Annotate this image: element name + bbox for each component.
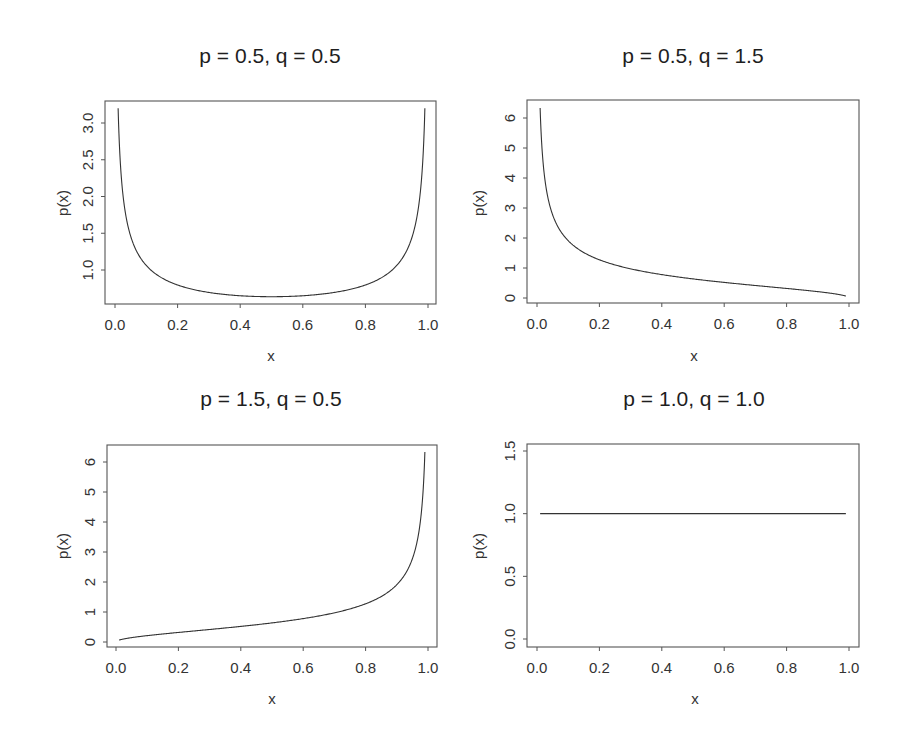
plot-canvas: 0.00.20.40.60.81.01.01.52.02.53.00.00.20… bbox=[0, 0, 900, 735]
y-tick-label: 2.0 bbox=[79, 186, 96, 207]
x-tick-label: 0.8 bbox=[355, 316, 376, 333]
y-tick-label: 1.0 bbox=[79, 260, 96, 281]
y-tick-label: 4 bbox=[81, 518, 98, 526]
y-tick-label: 2.5 bbox=[79, 149, 96, 170]
x-tick-label: 1.0 bbox=[839, 315, 860, 332]
x-tick-label: 0.0 bbox=[105, 316, 126, 333]
density-curve bbox=[118, 108, 425, 296]
x-tick-label: 0.0 bbox=[106, 659, 127, 676]
y-tick-label: 0.0 bbox=[501, 629, 518, 650]
y-tick-label: 2 bbox=[81, 578, 98, 586]
y-tick-label: 1.5 bbox=[79, 223, 96, 244]
x-tick-label: 0.6 bbox=[293, 659, 314, 676]
y-tick-label: 1.5 bbox=[501, 441, 518, 462]
x-tick-label: 0.2 bbox=[168, 659, 189, 676]
x-tick-label: 0.4 bbox=[651, 315, 672, 332]
x-tick-label: 0.0 bbox=[527, 315, 548, 332]
density-curve bbox=[540, 108, 846, 296]
y-tick-label: 3 bbox=[501, 204, 518, 212]
x-tick-label: 0.8 bbox=[776, 315, 797, 332]
x-tick-label: 1.0 bbox=[418, 316, 439, 333]
y-tick-label: 4 bbox=[501, 174, 518, 182]
y-tick-label: 0 bbox=[81, 638, 98, 646]
x-tick-label: 1.0 bbox=[839, 659, 860, 676]
y-tick-label: 1 bbox=[501, 264, 518, 272]
x-tick-label: 0.6 bbox=[714, 315, 735, 332]
y-tick-label: 0 bbox=[501, 294, 518, 302]
x-tick-label: 0.4 bbox=[230, 659, 251, 676]
x-tick-label: 0.0 bbox=[527, 659, 548, 676]
plot-frame bbox=[107, 445, 437, 647]
y-tick-label: 2 bbox=[501, 234, 518, 242]
y-tick-label: 6 bbox=[81, 458, 98, 466]
y-tick-label: 0.5 bbox=[501, 566, 518, 587]
x-tick-label: 0.6 bbox=[714, 659, 735, 676]
x-tick-label: 0.8 bbox=[776, 659, 797, 676]
plot-frame bbox=[527, 444, 859, 647]
density-curve bbox=[119, 452, 425, 640]
y-tick-label: 1.0 bbox=[501, 503, 518, 524]
x-tick-label: 0.6 bbox=[292, 316, 313, 333]
x-tick-label: 0.8 bbox=[355, 659, 376, 676]
plot-frame bbox=[527, 100, 859, 303]
x-tick-label: 0.4 bbox=[230, 316, 251, 333]
y-tick-label: 3 bbox=[81, 548, 98, 556]
x-tick-label: 0.2 bbox=[589, 315, 610, 332]
x-tick-label: 0.2 bbox=[589, 659, 610, 676]
y-tick-label: 5 bbox=[501, 144, 518, 152]
x-tick-label: 0.4 bbox=[651, 659, 672, 676]
y-tick-label: 3.0 bbox=[79, 113, 96, 134]
x-tick-label: 1.0 bbox=[418, 659, 439, 676]
y-tick-label: 5 bbox=[81, 488, 98, 496]
y-tick-label: 6 bbox=[501, 114, 518, 122]
x-tick-label: 0.2 bbox=[167, 316, 188, 333]
y-tick-label: 1 bbox=[81, 608, 98, 616]
